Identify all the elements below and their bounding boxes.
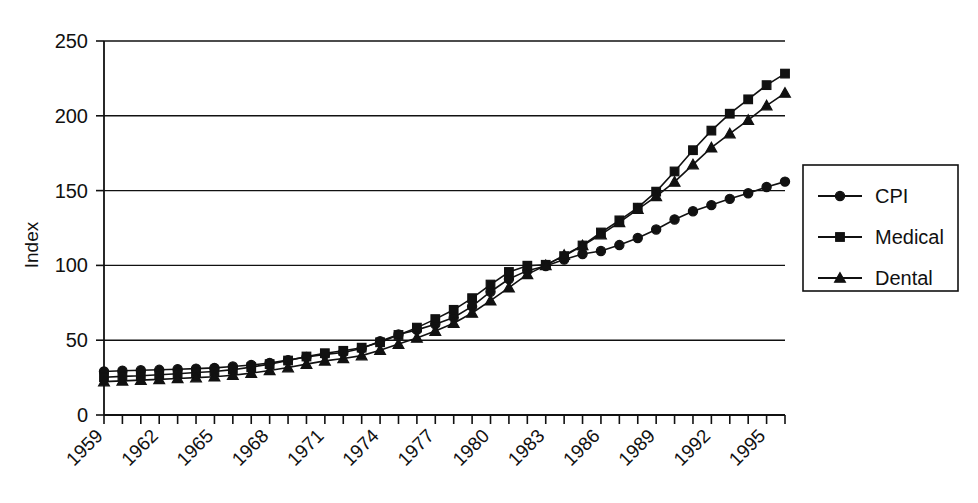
square-marker: [431, 315, 440, 324]
triangle-marker: [485, 295, 496, 305]
circle-marker: [707, 201, 716, 210]
x-tick-label-1968: 1968: [228, 425, 273, 470]
y-axis-title-text: Index: [21, 221, 42, 268]
x-tick-label-1965: 1965: [173, 425, 218, 470]
y-tick-labels: 250 200 150 100 50 0: [55, 30, 88, 426]
x-tick-label-1974: 1974: [338, 425, 383, 470]
y-tick-marks: [96, 41, 104, 415]
circle-marker: [762, 182, 771, 191]
square-marker: [670, 167, 679, 176]
y-tick-label-150: 150: [55, 180, 88, 202]
y-tick-label-250: 250: [55, 30, 88, 52]
legend-label-medical: Medical: [875, 226, 944, 248]
x-tick-label-1983: 1983: [504, 425, 549, 470]
x-tick-label-1980: 1980: [449, 425, 494, 470]
triangle-marker: [504, 282, 515, 292]
square-marker: [449, 306, 458, 315]
circle-marker: [725, 194, 734, 203]
series-cpi: [99, 177, 789, 376]
x-tick-marks: [104, 415, 785, 424]
circle-marker: [835, 191, 844, 200]
square-marker: [762, 81, 771, 90]
y-tick-label-0: 0: [77, 404, 88, 426]
square-marker: [505, 268, 514, 277]
x-tick-labels: 1959196219651968197119741977198019831986…: [62, 425, 769, 470]
y-tick-label-100: 100: [55, 254, 88, 276]
series-line-medical: [104, 74, 785, 378]
square-marker: [486, 280, 495, 289]
circle-marker: [615, 240, 624, 249]
series-line-cpi: [104, 182, 785, 372]
x-tick-label-1986: 1986: [559, 425, 604, 470]
square-marker: [725, 109, 734, 118]
legend-label-cpi: CPI: [875, 185, 908, 207]
gridlines: [104, 41, 785, 340]
line-chart: Index 250 200 150 100: [0, 0, 978, 503]
chart-legend: CPIMedicalDental: [803, 165, 958, 291]
x-tick-label-1992: 1992: [669, 425, 714, 470]
circle-marker: [633, 233, 642, 242]
x-tick-label-1962: 1962: [117, 425, 162, 470]
series-layer: [99, 69, 791, 386]
series-dental: [99, 88, 791, 386]
x-tick-label-1977: 1977: [393, 425, 438, 470]
square-marker: [836, 233, 845, 242]
series-line-dental: [104, 93, 785, 382]
circle-marker: [652, 225, 661, 234]
x-tick-label-1959: 1959: [62, 425, 107, 470]
square-marker: [781, 69, 790, 78]
circle-marker: [688, 207, 697, 216]
square-marker: [689, 146, 698, 155]
triangle-marker: [780, 88, 791, 98]
y-tick-label-200: 200: [55, 105, 88, 127]
axis-lines: [104, 41, 785, 415]
square-marker: [413, 323, 422, 332]
square-marker: [744, 95, 753, 104]
triangle-marker: [724, 128, 735, 138]
triangle-marker: [706, 142, 717, 152]
y-tick-label-50: 50: [66, 329, 88, 351]
square-marker: [468, 294, 477, 303]
legend-label-dental: Dental: [875, 267, 933, 289]
x-tick-label-1995: 1995: [725, 425, 770, 470]
circle-marker: [578, 249, 587, 258]
circle-marker: [596, 246, 605, 255]
triangle-marker: [761, 100, 772, 110]
circle-marker: [744, 189, 753, 198]
chart-figure: Index 250 200 150 100: [0, 0, 978, 503]
y-axis-title: Index: [21, 221, 42, 268]
circle-marker: [670, 215, 679, 224]
square-marker: [707, 126, 716, 135]
circle-marker: [780, 177, 789, 186]
x-tick-label-1971: 1971: [283, 425, 328, 470]
x-tick-label-1989: 1989: [614, 425, 659, 470]
